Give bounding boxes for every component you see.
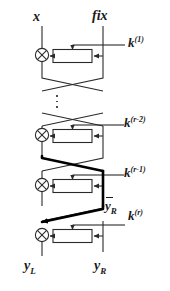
round-1-group	[35, 26, 125, 91]
label-round-key-r: k(r)	[128, 209, 143, 222]
key-exponent-r2: (r-2)	[131, 115, 146, 124]
key-exponent-r1: (r-1)	[131, 165, 146, 174]
intermediate-base: y	[105, 198, 111, 213]
feistel-network-diagram	[0, 0, 170, 291]
ellipsis-dot	[56, 95, 58, 97]
round-r-f-box	[53, 230, 92, 243]
label-output-y-right: yR	[94, 259, 106, 276]
label-input-fix: fix	[92, 9, 108, 23]
label-round-key-r-minus-2: k(r-2)	[124, 116, 146, 129]
label-round-key-r-minus-1: k(r-1)	[124, 166, 146, 179]
ellipsis-dot	[56, 106, 58, 108]
round-r2-f-box	[53, 130, 92, 143]
round-r-group	[35, 221, 125, 256]
round-1-f-box	[53, 50, 92, 63]
vertical-ellipsis	[56, 95, 60, 111]
label-intermediate-y-bar-r: yR	[105, 199, 117, 216]
key-exponent-r: (r)	[135, 208, 143, 217]
figure-canvas: x fix k(1) k(r-2) k(r-1) k(r) yR yL yR	[0, 0, 170, 291]
key-exponent-1: (1)	[135, 35, 144, 44]
label-input-x: x	[33, 10, 40, 24]
round-r1-f-box	[53, 180, 92, 193]
bold-fault-path	[42, 156, 103, 222]
output-left-subscript: L	[30, 266, 36, 276]
round-r2-group	[35, 113, 124, 171]
intermediate-subscript: R	[111, 206, 117, 216]
label-round-key-1: k(1)	[128, 36, 144, 49]
output-right-subscript: R	[100, 266, 106, 276]
ellipsis-dot	[56, 101, 58, 103]
label-output-y-left: yL	[24, 259, 36, 276]
overbar	[106, 197, 113, 198]
